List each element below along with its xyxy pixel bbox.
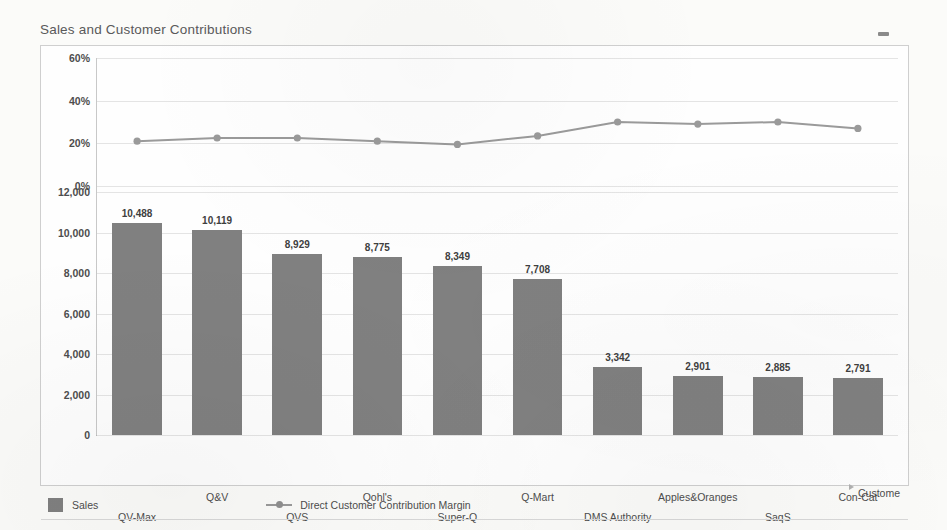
minimize-dash-icon[interactable] xyxy=(878,32,889,36)
chart-frame: 60%40%20%0% 12,00010,0008,0006,0004,0002… xyxy=(40,45,909,486)
y-tick-value: 12,000 xyxy=(58,186,90,198)
bar[interactable] xyxy=(593,367,643,435)
bar-value-label: 7,708 xyxy=(525,264,550,275)
bar[interactable] xyxy=(112,223,162,435)
bar[interactable] xyxy=(353,257,403,435)
bar-value-label: 2,885 xyxy=(765,362,790,373)
y-tick-value: 10,000 xyxy=(58,227,90,239)
gridline xyxy=(97,186,898,187)
margin-line-series xyxy=(97,58,898,186)
chart-legend: Sales Direct Customer Contribution Margi… xyxy=(41,492,908,518)
chart-title: Sales and Customer Contributions xyxy=(40,22,252,37)
margin-line-swatch-icon xyxy=(266,500,292,510)
bar-value-label: 8,349 xyxy=(445,251,470,262)
bar[interactable] xyxy=(833,378,883,435)
bar[interactable] xyxy=(433,266,483,435)
x-axis-arrow-icon xyxy=(849,484,854,490)
bar-value-label: 3,342 xyxy=(605,352,630,363)
legend-label-margin: Direct Customer Contribution Margin xyxy=(300,499,470,511)
margin-line-marker[interactable] xyxy=(854,125,861,132)
y-tick-percent: 40% xyxy=(69,95,90,107)
margin-line-marker[interactable] xyxy=(534,132,541,139)
margin-line-marker[interactable] xyxy=(694,121,701,128)
y-tick-value: 6,000 xyxy=(64,308,90,320)
value-plot-panel: 12,00010,0008,0006,0004,0002,0000 10,488… xyxy=(97,192,898,435)
legend-label-sales: Sales xyxy=(72,499,98,511)
bar-value-label: 10,488 xyxy=(122,208,153,219)
bar[interactable] xyxy=(753,377,803,435)
margin-line-path xyxy=(137,122,858,144)
bar-value-label: 2,901 xyxy=(685,361,710,372)
y-tick-value: 8,000 xyxy=(64,267,90,279)
bar-value-label: 8,929 xyxy=(285,239,310,250)
bar[interactable] xyxy=(673,376,723,435)
y-tick-percent: 20% xyxy=(69,137,90,149)
bar-value-label: 2,791 xyxy=(845,363,870,374)
gridline xyxy=(97,435,898,436)
y-tick-value: 4,000 xyxy=(64,348,90,360)
y-tick-percent: 60% xyxy=(69,52,90,64)
margin-line-marker[interactable] xyxy=(134,138,141,145)
gridline xyxy=(97,192,898,193)
legend-item-sales[interactable]: Sales xyxy=(48,498,98,512)
y-tick-value: 2,000 xyxy=(64,389,90,401)
margin-line-marker[interactable] xyxy=(214,134,221,141)
y-tick-value: 0 xyxy=(84,429,90,441)
margin-line-marker[interactable] xyxy=(294,134,301,141)
bar[interactable] xyxy=(192,230,242,435)
margin-line-marker[interactable] xyxy=(374,138,381,145)
bar-value-label: 10,119 xyxy=(202,215,232,226)
legend-item-margin[interactable]: Direct Customer Contribution Margin xyxy=(266,499,470,511)
margin-line-marker[interactable] xyxy=(614,118,621,125)
percentage-plot-panel: 60%40%20%0% xyxy=(97,58,898,186)
bar[interactable] xyxy=(513,279,563,435)
bar[interactable] xyxy=(272,254,322,435)
sales-swatch-icon xyxy=(48,498,63,512)
legend-divider xyxy=(41,519,908,520)
bar-value-label: 8,775 xyxy=(365,242,390,253)
margin-line-marker[interactable] xyxy=(454,141,461,148)
margin-line-marker[interactable] xyxy=(774,118,781,125)
